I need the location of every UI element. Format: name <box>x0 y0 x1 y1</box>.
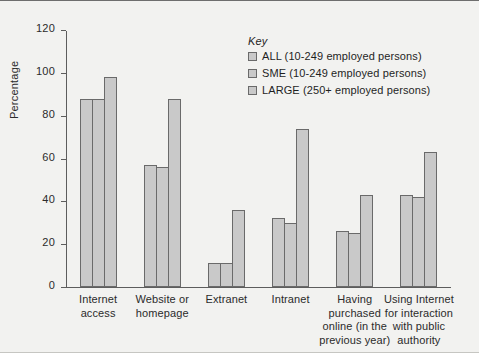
bar <box>296 129 309 287</box>
y-axis-tick: 80 <box>61 116 66 117</box>
bar <box>104 77 117 287</box>
bar <box>424 152 437 287</box>
y-axis-tick-label: 0 <box>49 279 55 291</box>
bar-group <box>80 31 117 287</box>
legend-label: SME (10-249 employed persons) <box>262 67 426 79</box>
legend-entries: ALL (10-249 employed persons)SME (10-249… <box>248 50 430 96</box>
chart-figure: Percentage 020406080100120 Internet acce… <box>0 0 479 353</box>
legend-swatch-icon <box>248 86 257 95</box>
bar <box>360 195 373 287</box>
y-axis-tick: 120 <box>61 30 66 31</box>
legend-title: Key <box>248 35 430 47</box>
y-axis-tick-label: 20 <box>42 236 55 248</box>
y-axis-tick: 20 <box>61 244 66 245</box>
legend-label: LARGE (250+ employed persons) <box>262 84 430 96</box>
y-axis-tick-label: 60 <box>42 151 55 163</box>
legend-swatch-icon <box>248 69 257 78</box>
chart-legend: Key ALL (10-249 employed persons)SME (10… <box>248 35 430 101</box>
y-axis-tick-label: 40 <box>42 193 55 205</box>
y-axis-line <box>66 31 67 288</box>
bar <box>232 210 245 287</box>
y-axis-tick: 0 <box>61 287 66 288</box>
legend-entry: LARGE (250+ employed persons) <box>248 84 430 96</box>
legend-label: ALL (10-249 employed persons) <box>262 50 422 62</box>
bar-group <box>208 31 245 287</box>
x-axis-line <box>66 287 451 288</box>
legend-swatch-icon <box>248 52 257 61</box>
y-axis-tick-label: 120 <box>36 22 55 34</box>
y-axis-tick: 60 <box>61 159 66 160</box>
y-axis-tick-label: 100 <box>36 65 55 77</box>
legend-entry: ALL (10-249 employed persons) <box>248 50 430 62</box>
y-axis-tick: 40 <box>61 201 66 202</box>
bar <box>168 99 181 287</box>
y-axis-label: Percentage <box>8 61 20 119</box>
x-axis-label: Using Internet for interaction with publ… <box>379 293 459 347</box>
y-axis-tick-label: 80 <box>42 108 55 120</box>
legend-entry: SME (10-249 employed persons) <box>248 67 430 79</box>
bar-group <box>144 31 181 287</box>
y-axis-tick: 100 <box>61 73 66 74</box>
